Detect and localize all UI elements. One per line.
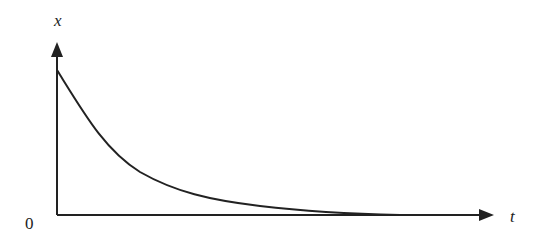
x-axis-arrow-icon — [479, 209, 494, 221]
y-axis-arrow-icon — [51, 42, 63, 57]
decay-diagram: x t 0 — [0, 0, 545, 251]
origin-label: 0 — [25, 214, 34, 233]
decay-curve — [57, 70, 400, 215]
y-axis-label: x — [53, 11, 62, 30]
x-axis-label: t — [510, 207, 516, 226]
